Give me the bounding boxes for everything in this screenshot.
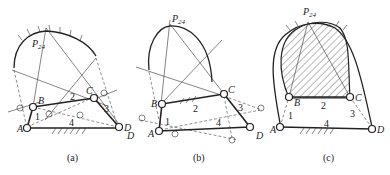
joint-B-c [286,94,293,101]
label-link4-a: 4 [69,117,74,128]
label-A-c: A [269,124,277,135]
label-link3-b: 3 [238,102,243,113]
label-C-b: C [228,84,235,95]
joint-B-a [30,104,37,111]
joint-C-c [347,94,354,101]
caption-c: (c) [323,152,334,164]
label-C-c: C [355,92,362,103]
label-B-b: B [151,98,157,109]
label-A-b: A [147,128,155,139]
label-link4-b: 4 [216,117,221,128]
joint-D-c [369,126,376,133]
joint-B-b [159,101,166,108]
panel-b: P24 A B C D D 1 2 3 4 (b) [126,13,264,164]
joint-D-b [247,124,254,131]
caption-b: (b) [193,152,205,164]
label-A-a: A [16,123,24,134]
label-B-c: B [294,97,300,108]
label-link1-c: 1 [288,110,293,121]
label-link2-c: 2 [321,100,326,111]
label-C-a: C [86,85,93,96]
joint-D-a [116,124,123,131]
label-B-a: B [38,95,44,106]
label-link4-c: 4 [324,118,329,129]
pole-label-c: P24 [302,6,317,19]
mechanism-figure: P24 A B C D 1 2 3 4 (a) [0,0,390,175]
label-link2-b: 2 [193,103,198,114]
centrode-curve-b [149,26,212,82]
panel-a: P24 A B C D 1 2 3 4 (a) [8,25,132,164]
label-D-prime-b: D [126,130,135,141]
pole-label-b: P24 [171,13,186,26]
caption-a: (a) [67,152,78,164]
joint-A-a [24,125,31,132]
label-link2-a: 2 [70,91,75,102]
pole-label-a: P24 [31,38,46,51]
label-link3-c: 3 [350,108,355,119]
centrode-curve-a [14,31,96,68]
ground-hatch-a [52,128,86,134]
panel-c: P24 A B C D 1 2 3 4 (c) [269,6,385,164]
label-D-b: D [255,130,264,141]
label-D-c: D [376,124,385,135]
label-link3-a: 3 [104,103,109,114]
label-link1-a: 1 [35,111,40,122]
link-3-b [224,94,250,127]
label-link1-b: 1 [165,116,170,127]
joint-A-b [156,128,163,135]
joint-A-c [277,124,284,131]
joint-C-b [221,91,228,98]
